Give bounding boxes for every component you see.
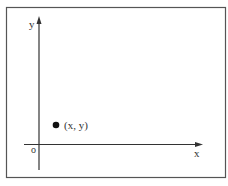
y-axis-label: y (29, 18, 35, 30)
y-axis (37, 16, 42, 170)
point-label: (x, y) (64, 119, 88, 132)
x-axis (24, 142, 203, 147)
x-axis-label: x (194, 147, 200, 159)
coordinate-diagram: y x o (x, y) (0, 0, 228, 186)
y-axis-arrow-icon (37, 16, 42, 24)
origin-label: o (31, 144, 36, 155)
point-marker (53, 122, 60, 129)
